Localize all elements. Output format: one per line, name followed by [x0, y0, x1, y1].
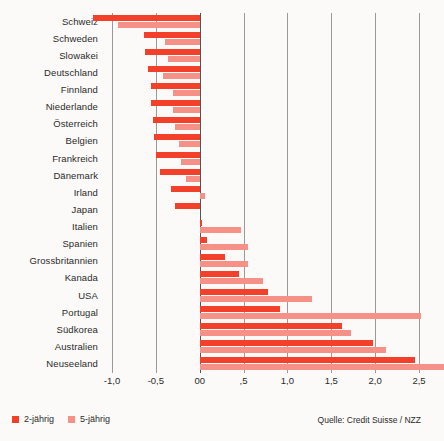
category-label-row: Niederlande — [0, 99, 104, 116]
bar-2y — [200, 289, 268, 295]
bar-2y — [160, 169, 199, 175]
legend-swatch-icon — [68, 416, 75, 423]
bar-2y — [154, 134, 200, 140]
legend-item[interactable]: 5-jährig — [68, 414, 110, 424]
table-row — [112, 338, 419, 355]
bar-5y — [168, 56, 200, 62]
bar-2y — [145, 49, 199, 55]
category-label-row: Belgien — [0, 133, 104, 150]
bar-5y — [200, 330, 351, 336]
category-label-row: Schweden — [0, 30, 104, 47]
legend-swatch-icon — [12, 416, 19, 423]
x-axis: -1,0-0,500,51,01,52,02,5 — [112, 375, 419, 389]
bar-2y — [200, 323, 342, 329]
table-row — [112, 167, 419, 184]
table-row — [112, 304, 419, 321]
category-label-row: Südkorea — [0, 321, 104, 338]
category-label: Belgien — [66, 136, 98, 146]
bar-5y — [163, 73, 200, 79]
bar-5y — [200, 364, 444, 370]
table-row — [112, 30, 419, 47]
bar-2y — [171, 186, 200, 192]
category-label-row: Irland — [0, 184, 104, 201]
category-label-row: Spanien — [0, 236, 104, 253]
x-tick-label: ,5 — [240, 375, 248, 386]
category-label: Grossbritannien — [29, 256, 98, 266]
category-label: Slowakei — [59, 51, 98, 61]
table-row — [112, 82, 419, 99]
table-row — [112, 236, 419, 253]
category-label: Frankreich — [52, 154, 98, 164]
category-label-row: Italien — [0, 219, 104, 236]
table-row — [112, 13, 419, 30]
category-label: Kanada — [65, 273, 98, 283]
bar-2y — [151, 100, 199, 106]
bar-2y — [200, 271, 239, 277]
bar-2y — [153, 117, 199, 123]
bar-5y — [173, 107, 199, 113]
bar-2y — [200, 306, 281, 312]
bar-5y — [200, 193, 205, 199]
source-note: Quelle: Credit Suisse / NZZ — [318, 415, 421, 425]
category-label-row: Deutschland — [0, 64, 104, 81]
bar-5y — [200, 296, 312, 302]
category-label: Südkorea — [57, 325, 98, 335]
bar-2y — [144, 32, 200, 38]
table-row — [112, 321, 419, 338]
table-row — [112, 201, 419, 218]
bar-5y — [200, 313, 421, 319]
legend-label: 2-jährig — [24, 414, 54, 424]
x-tick-label: 1,5 — [325, 375, 338, 386]
category-label: Schweden — [53, 34, 98, 44]
table-row — [112, 253, 419, 270]
bar-2y — [200, 254, 225, 260]
table-row — [112, 356, 419, 373]
category-label-row: Australien — [0, 338, 104, 355]
category-label-row: Schweiz — [0, 13, 104, 30]
bar-2y — [175, 203, 200, 209]
category-label-row: Japan — [0, 201, 104, 218]
category-label: Spanien — [62, 239, 98, 249]
gridline — [419, 13, 420, 373]
chart-legend: 2-jährig5-jährig — [12, 414, 110, 424]
table-row — [112, 47, 419, 64]
bar-5y — [173, 90, 199, 96]
bar-2y — [148, 66, 200, 72]
category-label-row: Kanada — [0, 270, 104, 287]
bar-2y — [156, 152, 200, 158]
table-row — [112, 270, 419, 287]
bar-5y — [200, 227, 241, 233]
category-label: Deutschland — [44, 68, 98, 78]
bar-5y — [186, 176, 200, 182]
x-tick-label: 1,0 — [281, 375, 294, 386]
bar-5y — [179, 141, 200, 147]
table-row — [112, 116, 419, 133]
category-label-row: Neuseeland — [0, 356, 104, 373]
bar-2y — [151, 83, 200, 89]
bar-5y — [181, 159, 199, 165]
table-row — [112, 219, 419, 236]
category-label: Irland — [74, 188, 98, 198]
category-label-row: Dänemark — [0, 167, 104, 184]
bar-2y — [200, 237, 207, 243]
x-tick-label: -0,5 — [148, 375, 164, 386]
category-label: Italien — [72, 222, 98, 232]
category-label: Österreich — [53, 119, 98, 129]
x-tick-label: 00 — [194, 375, 205, 386]
bar-rows — [112, 13, 419, 373]
category-label-row: Frankreich — [0, 150, 104, 167]
category-label: Neuseeland — [46, 359, 98, 369]
x-tick-label: -1,0 — [104, 375, 120, 386]
bar-5y — [200, 244, 248, 250]
category-label: Australien — [55, 342, 98, 352]
category-label: Dänemark — [53, 171, 98, 181]
category-label-row: Slowakei — [0, 47, 104, 64]
category-label-row: Österreich — [0, 116, 104, 133]
table-row — [112, 287, 419, 304]
category-label: Niederlande — [46, 102, 98, 112]
legend-item[interactable]: 2-jährig — [12, 414, 54, 424]
bar-5y — [165, 39, 200, 45]
bar-5y — [118, 22, 200, 28]
bar-2y — [200, 340, 374, 346]
